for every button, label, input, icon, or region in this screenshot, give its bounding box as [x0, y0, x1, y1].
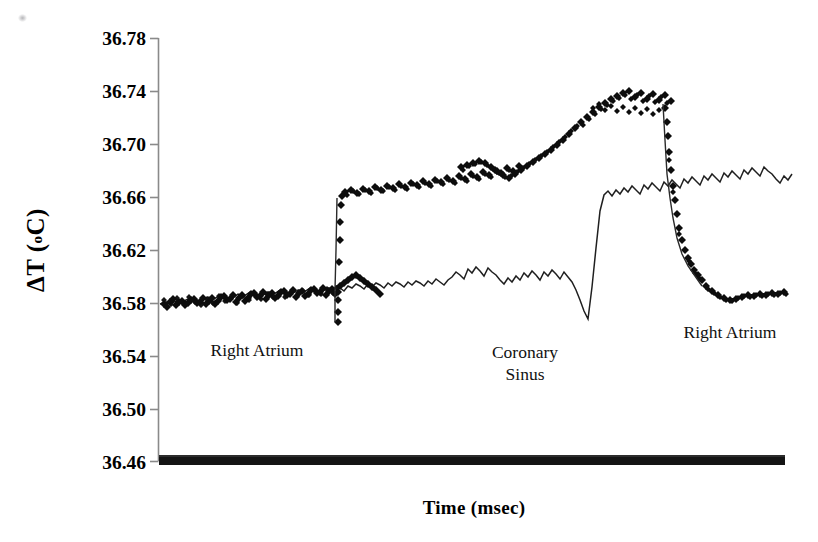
descent-connector: [335, 104, 702, 322]
baseline-bar-series: [159, 455, 785, 465]
chart-figure: ΔT (oC) Time (msec) 36.78 36.74 36.70 36…: [0, 0, 818, 542]
y-axis-ticks: [150, 39, 159, 462]
temperature-trace-markers: [160, 87, 789, 326]
plot-area: [0, 0, 818, 542]
